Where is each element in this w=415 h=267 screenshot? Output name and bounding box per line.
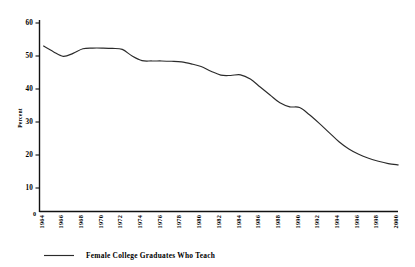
y-tick-label-60: 60 — [25, 19, 33, 27]
x-tick-label-1984: 1984 — [235, 214, 242, 228]
x-tick-label-1988: 1988 — [274, 215, 281, 228]
y-tick-label-10: 10 — [25, 184, 33, 192]
y-tick-label-50: 50 — [25, 52, 33, 60]
x-tick-label-1964: 1964 — [38, 214, 45, 228]
x-tick-label-1986: 1986 — [254, 215, 261, 228]
x-tick-label-1966: 1966 — [57, 215, 64, 228]
legend-label-0: Female College Graduates Who Teach — [86, 251, 215, 260]
x-tick-label-1972: 1972 — [116, 215, 123, 228]
x-tick-label-1994: 1994 — [333, 214, 340, 228]
chart-figure: 60 50 40 30 20 10 0 Percent 1964 1966 19… — [0, 0, 415, 267]
x-tick-label-1976: 1976 — [156, 215, 163, 228]
x-tick-label-1998: 1998 — [372, 215, 379, 228]
x-tick-label-1996: 1996 — [353, 215, 360, 228]
x-tick-label-1970: 1970 — [97, 215, 104, 228]
y-tick-label-20: 20 — [25, 151, 33, 159]
x-tick-label-1990: 1990 — [294, 215, 301, 228]
y-tick-label-30: 30 — [25, 118, 33, 126]
y-tick-label-40: 40 — [25, 85, 33, 93]
x-axis-tick-labels: 1964 1966 1968 1970 1972 1974 1976 1978 … — [38, 214, 400, 228]
y-axis-title: Percent — [17, 108, 23, 128]
x-tick-label-1980: 1980 — [195, 215, 202, 228]
x-tick-label-1982: 1982 — [215, 215, 222, 228]
x-tick-label-1968: 1968 — [77, 215, 84, 228]
line-chart: 60 50 40 30 20 10 0 Percent 1964 1966 19… — [0, 0, 415, 267]
origin-label: 0 — [33, 210, 36, 217]
series-line-female-college-graduates-who-teach — [44, 46, 399, 165]
x-tick-label-2000: 2000 — [392, 215, 399, 228]
x-tick-label-1978: 1978 — [175, 215, 182, 228]
x-tick-label-1992: 1992 — [313, 215, 320, 228]
chart-legend: Female College Graduates Who Teach — [44, 251, 215, 260]
x-tick-label-1974: 1974 — [136, 214, 143, 228]
